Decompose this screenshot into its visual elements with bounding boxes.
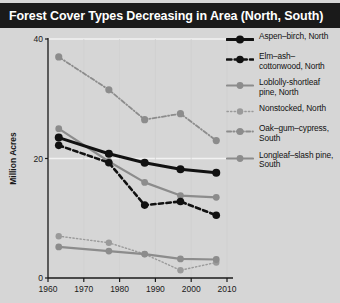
- legend-label-oak_gum_cypress_south: Oak–gum–cypress, South: [254, 124, 338, 143]
- data-point-3-3: [177, 198, 185, 206]
- data-point-5-1: [105, 248, 112, 255]
- legend-item-longleaf_slash_pine_south[interactable]: Longleaf–slash pine, South: [226, 151, 338, 170]
- legend-swatch-longleaf_slash_pine_south: [226, 151, 254, 164]
- data-point-2-0: [55, 134, 63, 142]
- y-tick-label-40: 40: [34, 34, 44, 44]
- legend-swatch-oak_gum_cypress_south: [226, 124, 254, 137]
- legend-item-oak_gum_cypress_south[interactable]: Oak–gum–cypress, South: [226, 124, 338, 143]
- legend-item-nonstocked_north[interactable]: Nonstocked, North: [226, 104, 338, 117]
- data-point-1-0: [55, 125, 62, 132]
- data-point-3-0: [55, 142, 63, 150]
- data-point-2-4: [212, 169, 220, 177]
- data-point-5-4: [213, 256, 220, 263]
- x-tick-label-1980: 1980: [110, 284, 129, 294]
- series-line-0: [59, 57, 217, 141]
- legend-marker-aspen_birch_north: [236, 36, 244, 44]
- legend-marker-loblolly_shortleaf_pine_north: [237, 82, 244, 89]
- chart-figure: Forest Cover Types Decreasing in Area (N…: [0, 0, 340, 303]
- data-point-5-2: [141, 251, 148, 258]
- legend-marker-nonstocked_north: [237, 109, 243, 115]
- chart-legend: Aspen–birch, NorthElm–ash–cottonwood, No…: [226, 32, 338, 177]
- legend-swatch-aspen_birch_north: [226, 32, 254, 45]
- legend-swatch-elm_ash_cottonwood_north: [226, 52, 254, 65]
- legend-marker-oak_gum_cypress_south: [236, 128, 243, 135]
- data-point-4-0: [56, 233, 62, 239]
- data-point-3-4: [212, 211, 220, 219]
- series-line-3: [59, 145, 217, 215]
- x-tick-label-2010: 2010: [218, 284, 237, 294]
- series-line-1: [59, 129, 217, 198]
- chart-title: Forest Cover Types Decreasing in Area (N…: [9, 9, 323, 23]
- legend-marker-longleaf_slash_pine_south: [237, 155, 244, 162]
- data-point-1-2: [141, 179, 148, 186]
- data-point-5-0: [55, 244, 62, 251]
- data-point-5-3: [177, 255, 184, 262]
- x-tick-label-2000: 2000: [182, 284, 201, 294]
- data-point-3-2: [141, 201, 149, 209]
- legend-item-aspen_birch_north[interactable]: Aspen–birch, North: [226, 32, 338, 45]
- legend-label-longleaf_slash_pine_south: Longleaf–slash pine, South: [254, 151, 338, 170]
- y-tick-label-0: 0: [38, 273, 43, 283]
- series-line-5: [59, 247, 217, 260]
- legend-item-elm_ash_cottonwood_north[interactable]: Elm–ash–cottonwood, North: [226, 52, 338, 71]
- legend-swatch-nonstocked_north: [226, 104, 254, 117]
- data-point-1-4: [213, 194, 220, 201]
- data-point-2-1: [105, 150, 113, 158]
- legend-label-aspen_birch_north: Aspen–birch, North: [254, 32, 328, 42]
- data-point-0-4: [213, 137, 220, 144]
- data-point-0-2: [141, 116, 148, 123]
- legend-label-nonstocked_north: Nonstocked, North: [254, 104, 326, 114]
- x-tick-label-1960: 1960: [39, 284, 58, 294]
- legend-swatch-loblolly_shortleaf_pine_north: [226, 78, 254, 91]
- x-tick-label-1970: 1970: [74, 284, 93, 294]
- data-point-4-3: [177, 267, 183, 273]
- legend-label-loblolly_shortleaf_pine_north: Loblolly-shortleaf pine, North: [254, 78, 338, 97]
- data-point-0-3: [177, 110, 184, 117]
- data-point-2-3: [176, 165, 184, 173]
- legend-label-elm_ash_cottonwood_north: Elm–ash–cottonwood, North: [254, 52, 338, 71]
- chart-title-bar: Forest Cover Types Decreasing in Area (N…: [0, 3, 340, 28]
- x-tick-label-1990: 1990: [146, 284, 165, 294]
- y-axis-title: Million Acres: [8, 132, 18, 185]
- data-point-4-1: [106, 240, 112, 246]
- data-point-3-1: [105, 159, 113, 167]
- data-point-2-2: [141, 159, 149, 167]
- data-point-0-0: [55, 53, 62, 60]
- y-tick-label-20: 20: [34, 154, 44, 164]
- legend-item-loblolly_shortleaf_pine_north[interactable]: Loblolly-shortleaf pine, North: [226, 78, 338, 97]
- data-point-0-1: [105, 86, 112, 93]
- legend-marker-elm_ash_cottonwood_north: [236, 56, 244, 64]
